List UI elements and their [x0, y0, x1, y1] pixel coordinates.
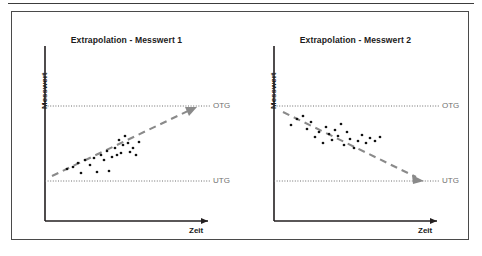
limit-label-otg-1: OTG — [213, 101, 230, 110]
limit-label-otg-2: OTG — [442, 101, 459, 110]
y-axis-label-2: Messwert — [269, 73, 278, 109]
scatter-points-2 — [290, 115, 382, 150]
x-axis-label-2: Zeit — [418, 226, 432, 235]
figure-root: Extrapolation - Messwert 1 — [0, 0, 482, 256]
chart-panel-messwert-1: Extrapolation - Messwert 1 — [12, 12, 241, 241]
plot-area-2 — [241, 12, 470, 241]
axis-lines-2 — [274, 46, 437, 224]
limit-label-utg-2: UTG — [442, 176, 459, 185]
axis-lines-1 — [45, 46, 208, 224]
chart-panel-messwert-2: Extrapolation - Messwert 2 — [241, 12, 470, 241]
plot-area-1 — [12, 12, 241, 241]
trend-line-1 — [52, 107, 197, 176]
limit-label-utg-1: UTG — [213, 176, 230, 185]
x-axis-label-1: Zeit — [189, 226, 203, 235]
y-axis-label-1: Messwert — [40, 73, 49, 109]
scatter-points-1 — [66, 135, 141, 175]
top-divider-rule — [8, 3, 474, 4]
figure-border-box: Extrapolation - Messwert 1 — [11, 11, 469, 240]
